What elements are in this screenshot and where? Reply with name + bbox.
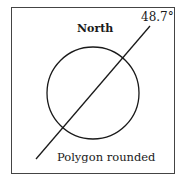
north-label: North [77, 22, 113, 35]
caption-label: Polygon rounded [57, 150, 155, 164]
angle-label: 48.7° [141, 10, 174, 24]
